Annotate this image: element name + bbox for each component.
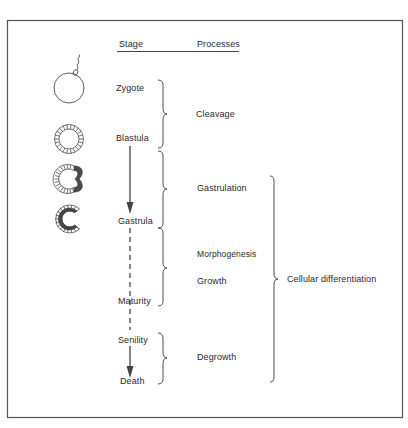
stage-column-header: Stage [119, 40, 143, 49]
cleavage-brace [158, 80, 167, 148]
process-cellular-differentiation: Cellular differentiation [287, 275, 376, 284]
gastrulation-brace [158, 151, 167, 228]
stage-senility: Senility [118, 336, 148, 345]
stage-blastula: Blastula [116, 134, 149, 143]
process-growth: Growth [197, 277, 227, 286]
stage-death: Death [120, 377, 145, 386]
cellular-differentiation-brace [270, 176, 278, 382]
process-degrowth: Degrowth [197, 353, 236, 362]
blastula-icon [55, 125, 84, 154]
degrowth-brace [158, 333, 167, 384]
early-gastrula-icon [53, 165, 82, 194]
stage-zygote: Zygote [116, 84, 144, 93]
zygote-with-sperm-icon [54, 55, 84, 104]
processes-column-header: Processes [197, 40, 240, 49]
morphogenesis-growth-brace [158, 228, 167, 306]
process-gastrulation: Gastrulation [197, 184, 247, 193]
stage-maturity: Maturity [118, 297, 151, 306]
gastrula-icon [55, 205, 80, 233]
process-cleavage: Cleavage [196, 110, 235, 119]
process-morphogenesis: Morphogenesis [197, 250, 256, 259]
stage-gastrula: Gastrula [118, 217, 153, 226]
life-cycle-diagram [0, 0, 408, 428]
